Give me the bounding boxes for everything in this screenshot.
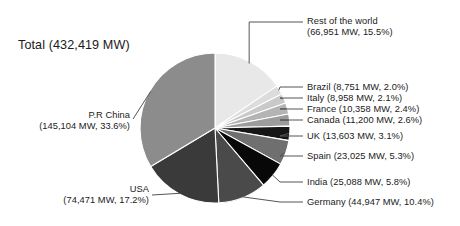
- pie-chart-figure: Total (432,419 MW) Rest of the world (66…: [0, 0, 460, 226]
- pie-slice-group: [140, 53, 290, 203]
- slice-label-line2: (66,951 MW, 15.5%): [307, 27, 393, 38]
- leader-line-india: [272, 175, 280, 182]
- slice-label-rest-of-the-world: Rest of the world (66,951 MW, 15.5%): [307, 16, 393, 39]
- slice-label-germany: Germany (44,947 MW, 10.4%): [307, 197, 434, 208]
- slice-label-line1: Spain (23,025 MW, 5.3%): [307, 151, 414, 161]
- slice-label-line1: UK (13,603 MW, 3.1%): [307, 131, 403, 141]
- slice-label-canada: Canada (11,200 MW, 2.6%): [307, 115, 422, 126]
- slice-label-line1: France (10,358 MW, 2.4%): [307, 104, 419, 114]
- chart-total-label: Total (432,419 MW): [18, 38, 130, 52]
- slice-label-line2: (74,471 MW, 17.2%): [63, 195, 149, 206]
- slice-label-line1: P.R China: [88, 110, 130, 120]
- slice-label-india: India (25,088 MW, 5.8%): [307, 177, 410, 188]
- slice-label-spain: Spain (23,025 MW, 5.3%): [307, 151, 414, 162]
- leader-line-germany: [242, 197, 280, 202]
- slice-label-line1: Brazil (8,751 MW, 2.0%): [307, 82, 408, 92]
- slice-label-line1: Italy (8,958 MW, 2.1%): [307, 93, 402, 103]
- slice-label-line1: Canada (11,200 MW, 2.6%): [307, 115, 422, 125]
- leader-line-usa: [152, 193, 180, 195]
- slice-label-pr-china: P.R China (145,104 MW, 33.6%): [39, 110, 130, 133]
- slice-label-line1: India (25,088 MW, 5.8%): [307, 177, 410, 187]
- slice-label-usa: USA (74,471 MW, 17.2%): [63, 184, 149, 207]
- slice-label-italy: Italy (8,958 MW, 2.1%): [307, 93, 402, 104]
- slice-label-brazil: Brazil (8,751 MW, 2.0%): [307, 82, 408, 93]
- slice-label-line1: Rest of the world: [307, 16, 378, 26]
- slice-label-uk: UK (13,603 MW, 3.1%): [307, 131, 403, 142]
- slice-label-france: France (10,358 MW, 2.4%): [307, 104, 419, 115]
- slice-label-line1: Germany (44,947 MW, 10.4%): [307, 197, 434, 207]
- slice-label-line2: (145,104 MW, 33.6%): [39, 121, 130, 132]
- slice-label-line1: USA: [130, 184, 149, 194]
